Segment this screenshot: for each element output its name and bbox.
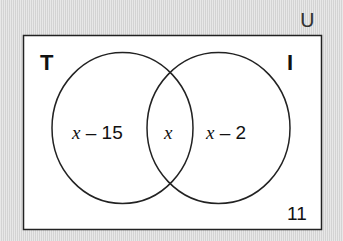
region-intersection: x <box>163 122 173 143</box>
region-outside: 11 <box>287 203 307 224</box>
universal-set-symbol: U <box>300 8 315 32</box>
set-i-label: I <box>287 50 293 75</box>
set-t-label: T <box>40 50 54 75</box>
region-i-only: x – 2 <box>205 122 246 143</box>
venn-diagram: U T I x – 15 x x – 2 11 <box>0 0 343 241</box>
universal-set-box <box>24 36 322 230</box>
region-t-only: x – 15 <box>71 122 123 143</box>
